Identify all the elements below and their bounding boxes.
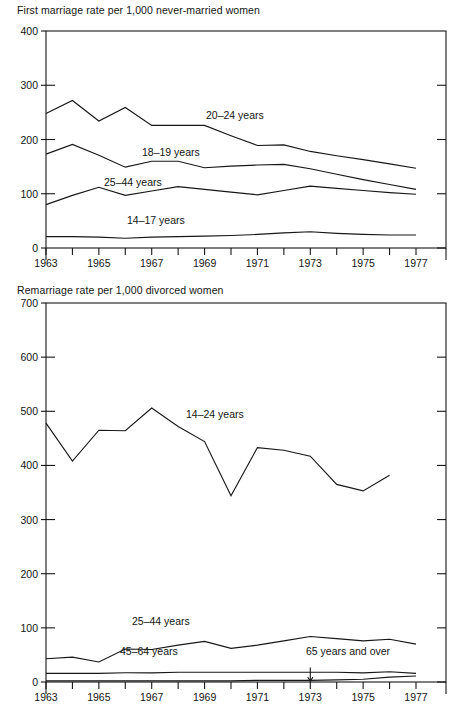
x-axis-label-first-marriage-1973: 1973	[299, 257, 323, 269]
plot-frame-first-marriage	[46, 31, 446, 248]
x-axis-label-remarriage-1967: 1967	[140, 691, 164, 703]
plot-frame-remarriage	[46, 303, 446, 682]
x-axis-label-remarriage-1965: 1965	[87, 691, 111, 703]
figure-root: First marriage rate per 1,000 never-marr…	[0, 0, 456, 722]
x-axis-label-remarriage-1971: 1971	[246, 691, 270, 703]
series-label-25-44-years: 25–44 years	[132, 615, 190, 627]
plot-area-first-marriage: 0100200300400196319651967196919711973197…	[0, 0, 456, 280]
y-axis-label-remarriage-0: 0	[32, 676, 38, 688]
y-axis-label-remarriage-200: 200	[20, 568, 38, 580]
x-axis-label-first-marriage-1975: 1975	[351, 257, 375, 269]
series-line-first-marriage-14-17-years	[46, 232, 416, 239]
y-axis-label-remarriage-500: 500	[20, 405, 38, 417]
x-axis-label-remarriage-1975: 1975	[351, 691, 375, 703]
series-line-first-marriage-25-44-years	[46, 186, 416, 204]
x-axis-label-first-marriage-1965: 1965	[87, 257, 111, 269]
y-axis-label-first-marriage-100: 100	[20, 188, 38, 200]
chart-panel-first-marriage: First marriage rate per 1,000 never-marr…	[0, 0, 456, 280]
x-axis-label-remarriage-1973: 1973	[299, 691, 323, 703]
x-axis-label-remarriage-1969: 1969	[193, 691, 217, 703]
series-line-remarriage-14-24-years	[46, 408, 390, 496]
series-label-14-17-years: 14–17 years	[127, 214, 185, 226]
x-axis-label-remarriage-1977: 1977	[404, 691, 428, 703]
series-label-14-24-years: 14–24 years	[186, 408, 244, 420]
y-axis-label-remarriage-700: 700	[20, 297, 38, 309]
annotation-pointer-65-and-over	[308, 667, 313, 681]
chart-panel-remarriage: Remarriage rate per 1,000 divorced women…	[0, 280, 456, 722]
series-label-45-64-years: 45–64 years	[120, 645, 178, 657]
x-axis-label-first-marriage-1977: 1977	[404, 257, 428, 269]
x-axis-label-first-marriage-1969: 1969	[193, 257, 217, 269]
series-line-remarriage-45-64-years	[46, 672, 416, 674]
series-line-remarriage-65-years-and-over	[46, 676, 416, 681]
series-label-18-19-years: 18–19 years	[142, 146, 200, 158]
y-axis-label-first-marriage-400: 400	[20, 25, 38, 37]
series-label-65-and-over: 65 years and over	[306, 645, 391, 657]
series-label-20-24-years: 20–24 years	[206, 109, 264, 121]
series-line-first-marriage-18-19-years	[46, 144, 416, 189]
y-axis-label-first-marriage-200: 200	[20, 134, 38, 146]
y-axis-label-first-marriage-300: 300	[20, 79, 38, 91]
series-label-25-44-years: 25–44 years	[104, 176, 162, 188]
y-axis-label-remarriage-400: 400	[20, 459, 38, 471]
plot-area-remarriage: 0100200300400500600700196319651967196919…	[0, 280, 456, 722]
y-axis-label-remarriage-300: 300	[20, 514, 38, 526]
x-axis-label-first-marriage-1971: 1971	[246, 257, 270, 269]
y-axis-label-remarriage-100: 100	[20, 622, 38, 634]
y-axis-label-first-marriage-0: 0	[32, 242, 38, 254]
x-axis-label-first-marriage-1967: 1967	[140, 257, 164, 269]
y-axis-label-remarriage-600: 600	[20, 351, 38, 363]
